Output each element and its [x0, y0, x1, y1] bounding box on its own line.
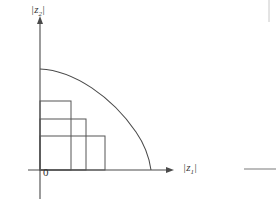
edge-crop-artifacts — [244, 0, 276, 169]
y-axis-label: |z2| — [31, 4, 45, 18]
rect-short-wide — [40, 136, 105, 170]
staircase-rectangles-group — [40, 101, 105, 170]
x-axis-label-close-bar: | — [194, 161, 197, 173]
arrow-right-icon — [166, 167, 174, 173]
figure-graphic — [0, 0, 276, 199]
origin-label: 0 — [43, 167, 49, 178]
figure-canvas: |z2| |z1| 0 — [0, 0, 276, 199]
y-axis-label-close-bar: | — [42, 3, 45, 15]
rect-medium — [40, 119, 86, 170]
x-axis-label: |z1| — [183, 162, 197, 176]
